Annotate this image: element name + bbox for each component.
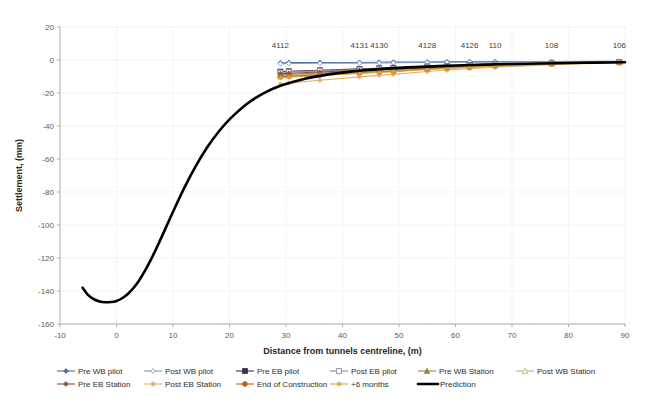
x-tick-label: 0 [114,331,119,340]
y-tick-label: 20 [45,23,54,32]
legend: Pre WB pilotPost WB pilotPre EB pilotPos… [57,367,595,389]
y-tick-label: -40 [42,122,54,131]
y-tick-label: -140 [38,287,55,296]
x-axis-title: Distance from tunnels centreline, (m) [263,346,422,356]
legend-label: Post WB Station [537,367,595,376]
data-point-label: 4131 [351,41,369,50]
series-group [83,59,625,302]
data-point-label: 4126 [461,41,479,50]
data-point [377,70,382,75]
legend-marker [151,369,156,374]
settlement-chart: 200-20-40-60-80-100-120-140-160-10010203… [0,0,648,412]
data-point-label: 4130 [370,41,388,50]
y-tick-label: -160 [38,320,55,329]
legend-item-pre-eb-station[interactable]: Pre EB Station [57,380,130,389]
legend-label: +6 months [351,380,389,389]
legend-label: End of Construction [257,380,327,389]
x-tick-label: 20 [225,331,234,340]
x-tick-label: 10 [169,331,178,340]
legend-label: Pre WB pilot [78,367,123,376]
x-tick-label: 80 [564,331,573,340]
series-prediction [83,62,625,302]
legend-marker [243,369,248,374]
data-labels: 41124131413041284126110108106 [272,41,627,50]
data-point-label: 106 [613,41,627,50]
x-tick-label: 60 [451,331,460,340]
x-tick-label: 70 [508,331,517,340]
y-tick-label: -120 [38,254,55,263]
data-point-label: 4112 [272,41,290,50]
data-point [318,78,323,83]
x-tick-label: 90 [621,331,630,340]
legend-marker [337,382,342,387]
legend-item-end-of-construction[interactable]: End of Construction [236,380,327,389]
chart-canvas: 200-20-40-60-80-100-120-140-160-10010203… [0,0,648,412]
legend-item-pre-eb-pilot[interactable]: Pre EB pilot [236,367,300,376]
legend-item-prediction[interactable]: Prediction [418,380,476,389]
y-axis-title: Settlement, (mm) [14,139,24,212]
y-tick-label: -20 [42,89,54,98]
x-tick-label: -10 [54,331,66,340]
data-point-label: 4128 [418,41,436,50]
legend-marker [151,382,156,387]
x-tick-label: 40 [338,331,347,340]
legend-label: Post EB pilot [351,367,398,376]
legend-item-pre-wb-station[interactable]: Pre WB Station [418,367,494,376]
data-point-label: 108 [545,41,559,50]
legend-marker [337,369,342,374]
data-point [278,75,283,80]
y-tick-label: -80 [42,188,54,197]
legend-label: Pre EB Station [78,380,130,389]
y-tick-label: 0 [50,56,55,65]
legend-marker [64,382,69,387]
legend-label: Post WB pilot [165,367,214,376]
x-tick-label: 30 [282,331,291,340]
legend-item-post-wb-station[interactable]: Post WB Station [516,367,595,376]
legend-label: Prediction [440,380,476,389]
legend-marker [64,369,69,374]
legend-item-post-eb-pilot[interactable]: Post EB pilot [330,367,398,376]
legend-item--6-months[interactable]: +6 months [330,380,389,389]
y-tick-label: -60 [42,155,54,164]
legend-item-pre-wb-pilot[interactable]: Pre WB pilot [57,367,123,376]
legend-item-post-eb-station[interactable]: Post EB Station [144,380,221,389]
legend-label: Post EB Station [165,380,221,389]
y-tick-label: -100 [38,221,55,230]
data-point-label: 110 [489,41,502,50]
legend-label: Pre WB Station [439,367,494,376]
legend-label: Pre EB pilot [257,367,300,376]
x-tick-label: 50 [395,331,404,340]
data-point [391,69,396,74]
legend-marker [243,382,248,387]
legend-item-post-wb-pilot[interactable]: Post WB pilot [144,367,214,376]
data-point [286,75,291,80]
